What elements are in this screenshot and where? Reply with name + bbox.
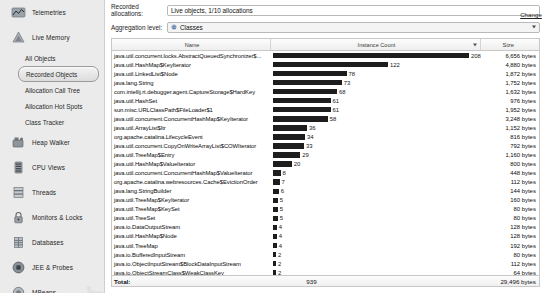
sidebar-item-class-tracker[interactable]: Class Tracker bbox=[0, 114, 104, 130]
instance-count-value: 73 bbox=[344, 80, 351, 86]
table-row[interactable]: java.util.LinkedList$Node781,872 bytes bbox=[112, 69, 539, 78]
sidebar-item-label: CPU Views bbox=[32, 164, 65, 171]
column-header-size[interactable]: Size bbox=[481, 39, 539, 50]
cell-name: java.util.HashMap$KeyIterator bbox=[112, 62, 271, 68]
table-row[interactable]: java.util.HashSet61976 bytes bbox=[112, 96, 539, 105]
table-row[interactable]: java.lang.StringBuilder6144 bytes bbox=[112, 187, 539, 196]
table-row[interactable]: com.intellij.rt.debugger.agent.CaptureSt… bbox=[112, 87, 539, 96]
cell-name: java.util.concurrent.ConcurrentHashMap$K… bbox=[112, 116, 271, 122]
table-row[interactable]: java.util.HashMap$ValueIterator20800 byt… bbox=[112, 160, 539, 169]
table-row[interactable]: java.util.ArrayList$Itr361,152 bytes bbox=[112, 123, 539, 132]
table-row[interactable]: sun.misc.URLClassPath$FileLoader$1611,95… bbox=[112, 105, 539, 114]
instance-count-bar bbox=[273, 98, 331, 103]
instance-count-bar bbox=[273, 152, 300, 157]
aggregation-level-label: Aggregation level: bbox=[111, 24, 167, 31]
cell-instance-count: 78 bbox=[271, 71, 481, 77]
instance-count-value: 34 bbox=[307, 134, 314, 140]
cell-size: 80 bytes bbox=[481, 206, 539, 212]
sidebar-item-allocation-call-tree[interactable]: Allocation Call Tree bbox=[0, 82, 104, 98]
instance-count-value: 5 bbox=[280, 206, 283, 212]
table-row[interactable]: java.util.TreeMap4192 bytes bbox=[112, 241, 539, 250]
table-row[interactable]: java.io.ObjectInputStream$BlockDataInput… bbox=[112, 259, 539, 268]
sidebar-item-monitors-and-locks[interactable]: Monitors & Locks bbox=[0, 205, 104, 230]
cell-size: 816 bytes bbox=[481, 134, 539, 140]
instance-count-bar bbox=[273, 116, 328, 121]
cell-name: java.io.DataOutputStream bbox=[112, 224, 271, 230]
instance-count-value: 4 bbox=[279, 233, 282, 239]
sidebar-item-telemetries[interactable]: Telemetries bbox=[0, 0, 104, 25]
cell-name: java.util.HashSet bbox=[112, 98, 271, 104]
change-link[interactable]: Change bbox=[520, 11, 542, 18]
sidebar-item-label: Databases bbox=[32, 239, 63, 246]
sidebar-item-allocation-hot-spots[interactable]: Allocation Hot Spots bbox=[0, 98, 104, 114]
total-label: Total: bbox=[112, 278, 146, 285]
objects-table: Name Instance Count Size java.util.concu… bbox=[111, 38, 540, 275]
table-row[interactable]: java.util.concurrent.CopyOnWriteArrayLis… bbox=[112, 141, 539, 150]
cell-size: 160 bytes bbox=[481, 197, 539, 203]
aggregation-level-select[interactable]: C Classes bbox=[167, 22, 540, 33]
table-row[interactable]: org.apache.catalina.LifecycleEvent34816 … bbox=[112, 132, 539, 141]
table-row[interactable]: java.lang.String731,752 bytes bbox=[112, 78, 539, 87]
column-header-instance-count[interactable]: Instance Count bbox=[271, 39, 481, 50]
cell-name: org.apache.catalina.LifecycleEvent bbox=[112, 134, 271, 140]
sort-desc-icon bbox=[473, 43, 477, 46]
instance-count-bar bbox=[273, 134, 305, 139]
cell-name: java.util.TreeMap bbox=[112, 243, 271, 249]
sidebar-item-label: All Objects bbox=[25, 55, 56, 62]
table-row[interactable]: java.util.concurrent.locks.AbstractQueue… bbox=[112, 51, 539, 60]
cell-instance-count: 29 bbox=[271, 152, 481, 158]
column-header-name[interactable]: Name bbox=[112, 39, 271, 50]
cell-size: 448 bytes bbox=[481, 170, 539, 176]
svg-text:C: C bbox=[173, 26, 176, 30]
cell-name: java.util.LinkedList$Node bbox=[112, 71, 271, 77]
table-row[interactable]: java.io.BufferedInputStream280 bytes bbox=[112, 250, 539, 259]
table-row[interactable]: java.io.ObjectStreamClass$WeakClassKey26… bbox=[112, 268, 539, 275]
table-row[interactable]: java.util.TreeMap$Entry291,160 bytes bbox=[112, 151, 539, 160]
cell-instance-count: 34 bbox=[271, 134, 481, 140]
sidebar-item-cpu-views[interactable]: CPU Views bbox=[0, 155, 104, 180]
table-row[interactable]: java.util.TreeMap$KeySet580 bytes bbox=[112, 205, 539, 214]
instance-count-bar bbox=[273, 261, 276, 266]
cell-instance-count: 73 bbox=[271, 80, 481, 86]
cell-instance-count: 7 bbox=[271, 179, 481, 185]
table-row[interactable]: java.util.HashMap$Node4128 bytes bbox=[112, 232, 539, 241]
sidebar-item-label: Threads bbox=[32, 189, 56, 196]
sidebar-item-heap-walker[interactable]: Heap Walker bbox=[0, 130, 104, 155]
cell-name: java.io.ObjectInputStream$BlockDataInput… bbox=[112, 261, 271, 267]
sidebar-item-databases[interactable]: Databases bbox=[0, 230, 104, 255]
instance-count-bar bbox=[273, 53, 469, 58]
threads-icon bbox=[11, 185, 26, 200]
table-row[interactable]: java.io.DataOutputStream4128 bytes bbox=[112, 223, 539, 232]
cell-instance-count: 6 bbox=[271, 188, 481, 194]
instance-count-value: 68 bbox=[339, 89, 346, 95]
table-row[interactable]: org.apache.catalina.webresources.Cache$E… bbox=[112, 178, 539, 187]
recorded-allocations-text: Live objects, 1/10 allocations bbox=[171, 7, 253, 14]
instance-count-value: 6 bbox=[281, 188, 284, 194]
sidebar-item-recorded-objects[interactable]: Recorded Objects bbox=[18, 66, 99, 82]
sidebar-item-label: Live Memory bbox=[32, 34, 70, 41]
table-row[interactable]: java.util.TreeMap$KeyIterator5160 bytes bbox=[112, 196, 539, 205]
sidebar-item-jee-and-probes[interactable]: JEE & Probes bbox=[0, 255, 104, 280]
sidebar-item-mbeans[interactable]: MBeans bbox=[0, 280, 104, 293]
table-row[interactable]: java.util.concurrent.ConcurrentHashMap$K… bbox=[112, 114, 539, 123]
table-row[interactable]: java.util.TreeSet580 bytes bbox=[112, 214, 539, 223]
instance-count-value: 5 bbox=[280, 197, 283, 203]
classes-icon: C bbox=[171, 24, 177, 30]
sidebar-item-live-memory[interactable]: Live Memory bbox=[0, 25, 104, 50]
sidebar-item-threads[interactable]: Threads bbox=[0, 180, 104, 205]
instance-count-value: 58 bbox=[330, 116, 337, 122]
instance-count-bar bbox=[273, 252, 276, 257]
cell-name: java.util.concurrent.locks.AbstractQueue… bbox=[112, 53, 271, 59]
table-row[interactable]: java.util.HashMap$KeyIterator1224,880 by… bbox=[112, 60, 539, 69]
instance-count-bar bbox=[273, 62, 388, 67]
table-row[interactable]: java.util.concurrent.ConcurrentHashMap$V… bbox=[112, 169, 539, 178]
total-size: 29,496 bytes bbox=[477, 278, 539, 285]
cell-name: java.util.HashMap$ValueIterator bbox=[112, 161, 271, 167]
cell-instance-count: 4 bbox=[271, 233, 481, 239]
table-body[interactable]: java.util.concurrent.locks.AbstractQueue… bbox=[112, 51, 539, 275]
telemetries-icon bbox=[11, 5, 26, 20]
cell-name: java.util.concurrent.CopyOnWriteArrayLis… bbox=[112, 143, 271, 149]
sidebar: profiler Telemetries Live Memory All Obj… bbox=[0, 0, 105, 293]
sidebar-item-all-objects[interactable]: All Objects bbox=[0, 50, 104, 66]
cell-name: java.lang.String bbox=[112, 80, 271, 86]
